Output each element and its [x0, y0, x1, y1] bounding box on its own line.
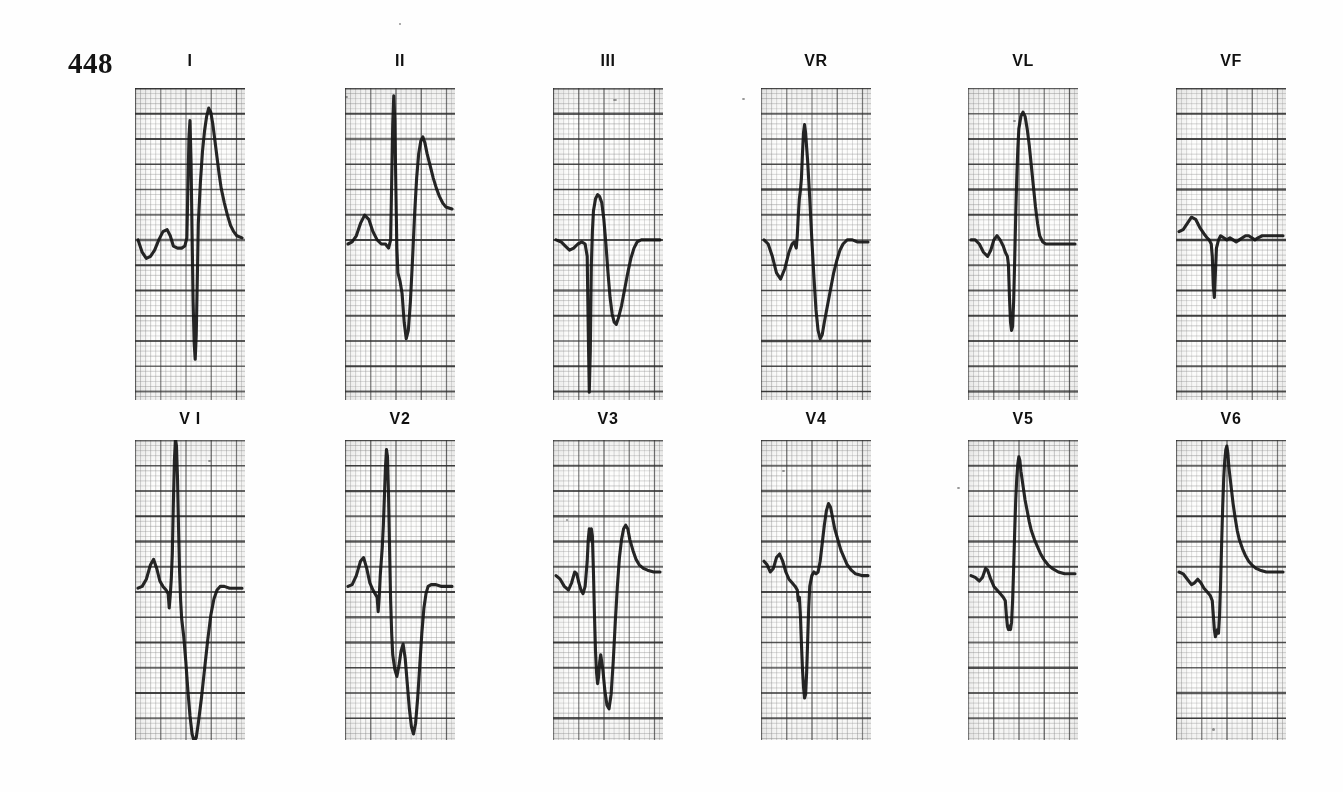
scan-speck — [1212, 728, 1215, 731]
ecg-strip-vf — [1176, 88, 1286, 400]
scan-speck — [345, 96, 348, 98]
lead-panel-v3: V3 — [553, 410, 663, 740]
ecg-strip-ii — [345, 88, 455, 400]
scan-speck — [399, 23, 401, 25]
lead-panel-i: I — [135, 52, 245, 400]
lead-panel-v1: V I — [135, 410, 245, 740]
lead-panel-v2: V2 — [345, 410, 455, 740]
scan-speck — [208, 460, 211, 462]
ecg-strip-v2 — [345, 440, 455, 740]
ecg-strip-vl — [968, 88, 1078, 400]
ecg-strip-v3 — [553, 440, 663, 740]
lead-label-iii: III — [553, 52, 663, 70]
ecg-strip-v1 — [135, 440, 245, 740]
ecg-strip-i — [135, 88, 245, 400]
ecg-strip-v5 — [968, 440, 1078, 740]
lead-label-vr: VR — [761, 52, 871, 70]
scan-speck — [782, 470, 785, 472]
lead-label-v4: V4 — [761, 410, 871, 428]
lead-label-v5: V5 — [968, 410, 1078, 428]
scan-speck — [613, 99, 617, 101]
lead-label-v2: V2 — [345, 410, 455, 428]
scan-speck — [742, 98, 745, 100]
scan-speck — [957, 487, 960, 489]
ecg-figure: 448 I II III VR VL VF V I V2 V3 V4 V5 V6 — [0, 0, 1343, 792]
page-number: 448 — [68, 47, 113, 80]
lead-panel-iii: III — [553, 52, 663, 400]
lead-label-v3: V3 — [553, 410, 663, 428]
scan-speck — [566, 519, 568, 521]
ecg-strip-v6 — [1176, 440, 1286, 740]
lead-label-v1: V I — [135, 410, 245, 428]
lead-panel-v5: V5 — [968, 410, 1078, 740]
lead-panel-vr: VR — [761, 52, 871, 400]
scan-speck — [1013, 120, 1016, 122]
lead-label-i: I — [135, 52, 245, 70]
lead-panel-vl: VL — [968, 52, 1078, 400]
lead-panel-v4: V4 — [761, 410, 871, 740]
lead-label-v6: V6 — [1176, 410, 1286, 428]
ecg-strip-v4 — [761, 440, 871, 740]
lead-panel-v6: V6 — [1176, 410, 1286, 740]
lead-label-vf: VF — [1176, 52, 1286, 70]
lead-label-ii: II — [345, 52, 455, 70]
ecg-strip-iii — [553, 88, 663, 400]
lead-label-vl: VL — [968, 52, 1078, 70]
lead-panel-vf: VF — [1176, 52, 1286, 400]
lead-panel-ii: II — [345, 52, 455, 400]
ecg-strip-vr — [761, 88, 871, 400]
